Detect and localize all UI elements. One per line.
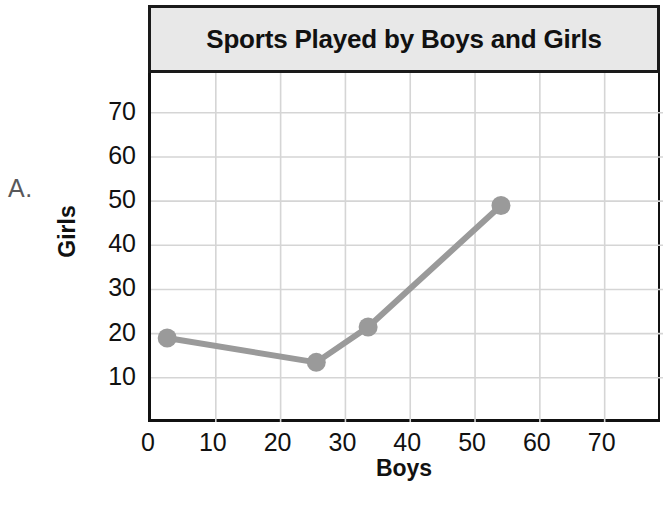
- x-tick-label: 10: [183, 428, 243, 457]
- data-point-marker: [359, 318, 378, 337]
- y-tick-label: 10: [0, 362, 136, 391]
- x-tick-label: 40: [377, 428, 437, 457]
- y-tick-label: 70: [0, 97, 136, 126]
- x-tick-label: 50: [442, 428, 502, 457]
- data-series-line: [151, 73, 663, 422]
- data-point-marker: [158, 329, 177, 348]
- y-axis-label: Girls: [54, 205, 81, 257]
- y-tick-label: 60: [0, 141, 136, 170]
- x-tick-label: 70: [572, 428, 632, 457]
- x-tick-label: 0: [118, 428, 178, 457]
- y-tick-label: 30: [0, 273, 136, 302]
- chart-figure: Sports Played by Boys and Girls 10203040…: [0, 0, 670, 507]
- x-tick-label: 30: [312, 428, 372, 457]
- page-title: Sports Played by Boys and Girls: [206, 24, 601, 55]
- x-axis-label: Boys: [148, 455, 660, 482]
- x-tick-label: 20: [248, 428, 308, 457]
- data-point-marker: [307, 353, 326, 372]
- x-tick-label: 60: [507, 428, 567, 457]
- y-tick-label: 20: [0, 318, 136, 347]
- chart-title-box: Sports Played by Boys and Girls: [148, 5, 660, 73]
- plot-area: [148, 73, 660, 422]
- series-line: [167, 206, 501, 363]
- data-point-marker: [491, 196, 510, 215]
